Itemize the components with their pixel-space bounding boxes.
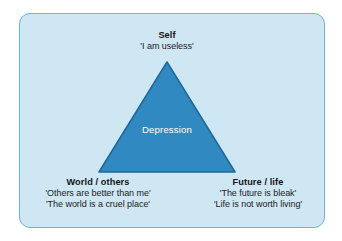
node-future-life-quote-2: 'Life is not worth living' xyxy=(185,199,331,210)
node-self-quote-1: 'I am useless' xyxy=(108,41,226,52)
triangle-center-label: Depression xyxy=(108,124,226,135)
node-self-title: Self xyxy=(108,30,226,41)
node-world-others: World / others 'Others are better than m… xyxy=(25,177,171,210)
node-future-life-quote-1: 'The future is bleak' xyxy=(185,188,331,199)
node-world-others-quote-1: 'Others are better than me' xyxy=(25,188,171,199)
node-future-life: Future / life 'The future is bleak' 'Lif… xyxy=(185,177,331,210)
node-world-others-title: World / others xyxy=(25,177,171,188)
node-world-others-quote-2: 'The world is a cruel place' xyxy=(25,199,171,210)
node-self: Self 'I am useless' xyxy=(108,30,226,52)
node-future-life-title: Future / life xyxy=(185,177,331,188)
cognitive-triad-diagram: Depression Self 'I am useless' World / o… xyxy=(0,0,342,241)
